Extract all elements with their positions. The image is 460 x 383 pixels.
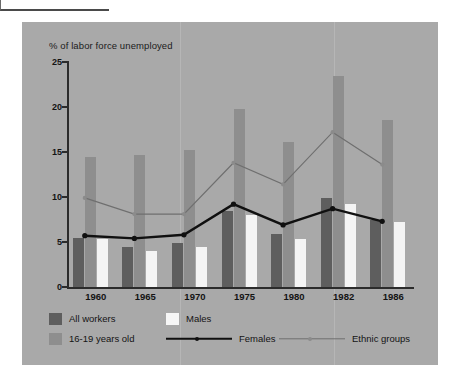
- legend-row-1: All workers Males: [49, 310, 429, 327]
- y-tick-label-5: 5: [32, 237, 62, 247]
- marker-ethnic-groups-1986: [380, 163, 384, 167]
- legend-swatch-all-workers: [49, 313, 62, 325]
- marker-ethnic-groups-1960: [83, 196, 87, 200]
- legend-label-ethnic-groups: Ethnic groups: [352, 333, 410, 344]
- legend-marker-females: [195, 337, 199, 341]
- marker-females-1980: [280, 222, 285, 227]
- legend-line-females: [166, 333, 232, 345]
- y-tick-label-0: 0: [32, 282, 62, 292]
- marker-females-1970: [181, 232, 186, 237]
- scan-artifact-top-rule: [0, 0, 109, 11]
- marker-ethnic-groups-1982: [331, 130, 335, 134]
- legend-row-2: 16-19 years old Females Ethnic groups: [49, 330, 429, 347]
- y-tick-label-10: 10: [32, 192, 62, 202]
- marker-females-1975: [231, 202, 236, 207]
- legend-item-females: Females: [166, 330, 275, 347]
- marker-females-1960: [82, 233, 87, 238]
- marker-females-1982: [330, 206, 335, 211]
- marker-ethnic-groups-1975: [231, 161, 235, 165]
- legend-label-all-workers: All workers: [69, 313, 115, 324]
- legend-swatch-males: [166, 313, 179, 325]
- legend-label-females: Females: [239, 333, 275, 344]
- marker-ethnic-groups-1970: [182, 212, 186, 216]
- y-tick-label-25: 25: [32, 57, 62, 67]
- legend-item-males: Males: [166, 310, 211, 327]
- plot-title: % of labor force unemployed: [49, 40, 173, 51]
- legend-line-ethnic-groups: [279, 333, 345, 345]
- legend-swatch-teens: [49, 333, 62, 345]
- legend-label-males: Males: [186, 313, 211, 324]
- chart-panel: % of labor force unemployed 0510152025 1…: [22, 22, 438, 365]
- marker-females-1965: [132, 236, 137, 241]
- chart-legend: All workers Males 16-19 years old Female…: [49, 310, 429, 356]
- y-tick-label-20: 20: [32, 102, 62, 112]
- legend-item-ethnic-groups: Ethnic groups: [279, 330, 410, 347]
- legend-item-all-workers: All workers: [49, 310, 115, 327]
- marker-ethnic-groups-1980: [281, 182, 285, 186]
- legend-item-teens: 16-19 years old: [49, 330, 134, 347]
- line-females: [85, 204, 382, 238]
- legend-rule-ethnic-groups: [279, 338, 345, 339]
- marker-ethnic-groups-1965: [132, 212, 136, 216]
- plot-area: 0510152025 1960196519701975198019821986: [67, 62, 414, 287]
- legend-marker-ethnic-groups: [308, 337, 312, 341]
- y-tick-label-15: 15: [32, 147, 62, 157]
- marker-females-1986: [380, 219, 385, 224]
- line-series-overlay: [67, 62, 414, 287]
- legend-label-teens: 16-19 years old: [69, 333, 134, 344]
- legend-rule-females: [166, 337, 232, 340]
- x-tick-label-1986: 1986: [363, 291, 423, 302]
- x-axis-line: [67, 287, 414, 289]
